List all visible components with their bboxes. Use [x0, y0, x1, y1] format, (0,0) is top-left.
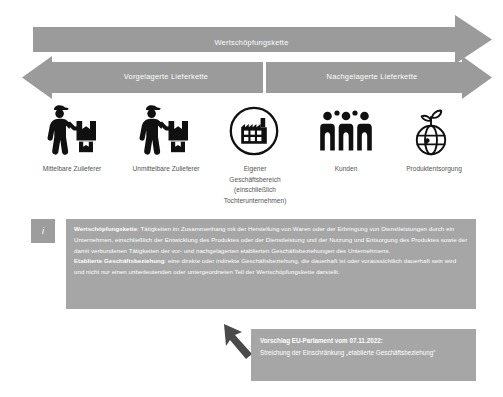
callout-panel: Vorschlag EU-Parlament vom 07.11.2022: S…	[251, 329, 476, 381]
callout-heading: Vorschlag EU-Parlament vom 07.11.2022:	[260, 335, 467, 347]
node-icon-cell-customers	[310, 100, 382, 162]
arrow-band-graphics	[0, 0, 503, 100]
node-label-row: Mittelbare Zulieferer Unmittelbare Zulie…	[0, 164, 503, 218]
factory-in-circle-icon	[228, 105, 280, 157]
node-label-indirect-supplier: Mittelbare Zulieferer	[24, 164, 120, 175]
definition-established-relationship: Etablierte Geschäftsbeziehung: eine dire…	[74, 256, 468, 278]
node-label-own-business: Eigener Geschäftsbereich (einschließlich…	[208, 164, 302, 206]
node-label-customers: Kunden	[310, 164, 382, 175]
diagram-root: Wertschöpfungskette Vorgelagerte Lieferk…	[0, 0, 503, 397]
node-icon-cell-indirect-supplier	[36, 100, 108, 162]
upstream-arrow-shape	[22, 56, 263, 99]
factory-icon	[241, 118, 267, 144]
value-chain-arrow-shape	[33, 15, 492, 64]
node-icon-cell-product-disposal	[396, 100, 468, 162]
info-icon: i	[31, 219, 55, 243]
node-icon-row	[0, 100, 503, 162]
downstream-arrow-shape	[266, 56, 492, 99]
three-people-icon	[319, 106, 373, 156]
info-box: i Wertschöpfungskette: Tätigkeiten im Zu…	[0, 216, 503, 324]
definition-value-chain: Wertschöpfungskette: Tätigkeiten im Zusa…	[74, 224, 468, 256]
delivery-person-icon	[46, 102, 98, 160]
definitions-panel: Wertschöpfungskette: Tätigkeiten im Zusa…	[66, 219, 476, 309]
node-icon-cell-direct-supplier	[128, 100, 200, 162]
callout-box: Vorschlag EU-Parlament vom 07.11.2022: S…	[0, 322, 503, 397]
delivery-person-icon	[138, 102, 190, 160]
node-icon-cell-own-business	[218, 100, 290, 162]
arrow-band: Wertschöpfungskette Vorgelagerte Lieferk…	[0, 0, 503, 100]
node-label-direct-supplier: Unmittelbare Zulieferer	[118, 164, 214, 175]
definition-term-established-relationship: Etablierte Geschäftsbeziehung	[74, 257, 165, 264]
node-label-product-disposal: Produktentsorgung	[382, 164, 486, 175]
definition-term-value-chain: Wertschöpfungskette	[74, 225, 137, 232]
globe-sprout-icon	[407, 104, 457, 158]
callout-body: Streichung der Einschränkung „etablierte…	[260, 347, 467, 359]
